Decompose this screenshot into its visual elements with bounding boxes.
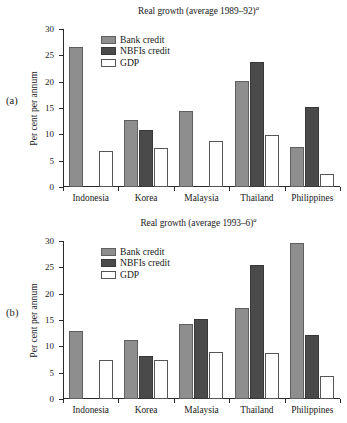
- bar: [320, 376, 334, 399]
- bar: [99, 151, 113, 187]
- legend-swatch-bank-credit-icon: [101, 36, 116, 44]
- x-axis-category-label: Thailand: [240, 193, 273, 203]
- bar: [69, 331, 83, 399]
- bar: [154, 360, 168, 400]
- y-axis-tick-label: 30: [45, 25, 54, 34]
- y-axis-label-b: Per cent per annum: [26, 241, 40, 399]
- bar: [305, 335, 319, 399]
- y-axis-tick-label: 20: [45, 77, 54, 86]
- bar-group: Malaysia: [174, 241, 229, 399]
- bar: [290, 147, 304, 187]
- legend-item-gdp: GDP: [101, 57, 170, 68]
- bar: [290, 243, 304, 399]
- chart-panel-b: (b) Real growth (average 1993–6)a Per ce…: [0, 212, 347, 423]
- legend-label-bank-credit: Bank credit: [120, 34, 165, 45]
- x-axis-tick: [340, 187, 341, 191]
- y-axis-tick-label: 0: [50, 183, 55, 192]
- bar: [99, 360, 113, 400]
- legend-item-gdp: GDP: [101, 269, 170, 280]
- legend-item-bank-credit: Bank credit: [101, 246, 170, 257]
- bar: [265, 353, 279, 399]
- y-axis-tick-label: 20: [45, 289, 54, 298]
- legend-label-gdp: GDP: [120, 57, 139, 68]
- legend-swatch-bank-credit-icon: [101, 248, 116, 256]
- x-axis-category-label: Thailand: [240, 405, 273, 415]
- bar: [235, 308, 249, 399]
- y-axis-tick-label: 30: [45, 237, 54, 246]
- x-axis-tick: [118, 187, 119, 191]
- x-axis-category-label: Indonesia: [72, 193, 108, 203]
- bar: [139, 130, 153, 187]
- chart-title-b-text: Real growth (average 1993–6): [140, 218, 253, 228]
- chart-panel-a: (a) Real growth (average 1989–92)a Per c…: [0, 0, 347, 211]
- legend-a: Bank credit NBFIs credit GDP: [101, 34, 170, 68]
- y-axis-tick-label: 15: [45, 316, 54, 325]
- legend-item-nbfis-credit: NBFIs credit: [101, 45, 170, 56]
- bar: [235, 81, 249, 187]
- bar: [320, 174, 334, 187]
- bar: [194, 319, 208, 399]
- legend-swatch-nbfis-credit-icon: [101, 259, 116, 267]
- bar: [209, 141, 223, 187]
- bar-group: Thailand: [229, 241, 284, 399]
- legend-swatch-gdp-icon: [101, 271, 116, 279]
- bar-group: Malaysia: [174, 29, 229, 187]
- panel-label-a: (a): [6, 95, 18, 106]
- bar: [179, 111, 193, 187]
- bar: [265, 135, 279, 187]
- x-axis-tick: [229, 187, 230, 191]
- bar: [154, 148, 168, 187]
- bar-group: Thailand: [229, 29, 284, 187]
- legend-label-nbfis-credit: NBFIs credit: [120, 45, 170, 56]
- y-axis-tick-label: 5: [50, 156, 55, 165]
- chart-title-a-superscript: a: [256, 4, 259, 11]
- y-axis-label-a: Per cent per annum: [26, 29, 40, 187]
- x-axis-tick: [285, 187, 286, 191]
- x-axis-tick: [340, 399, 341, 403]
- bar: [209, 352, 223, 399]
- bar: [179, 324, 193, 399]
- bar-group: Philippines: [285, 241, 340, 399]
- panel-label-b: (b): [6, 307, 19, 318]
- x-axis-category-label: Korea: [135, 193, 158, 203]
- x-axis-tick: [63, 187, 64, 191]
- y-axis-tick-label: 5: [50, 368, 55, 377]
- legend-label-nbfis-credit: NBFIs credit: [120, 257, 170, 268]
- y-axis-tick-label: 10: [45, 130, 54, 139]
- y-axis-tick-label: 25: [45, 263, 54, 272]
- chart-title-a-text: Real growth (average 1989–92): [138, 6, 256, 16]
- x-axis-category-label: Malaysia: [184, 193, 218, 203]
- bar: [124, 120, 138, 187]
- legend-b: Bank credit NBFIs credit GDP: [101, 246, 170, 280]
- legend-label-gdp: GDP: [120, 269, 139, 280]
- bar: [250, 62, 264, 187]
- legend-swatch-gdp-icon: [101, 59, 116, 67]
- y-axis-tick-label: 25: [45, 51, 54, 60]
- x-axis-tick: [174, 187, 175, 191]
- bar: [305, 107, 319, 187]
- y-axis-tick-label: 10: [45, 342, 54, 351]
- chart-title-a: Real growth (average 1989–92)a: [52, 6, 345, 16]
- x-axis-category-label: Philippines: [291, 405, 333, 415]
- x-axis-category-label: Philippines: [291, 193, 333, 203]
- x-axis-category-label: Indonesia: [72, 405, 108, 415]
- x-axis-category-label: Malaysia: [184, 405, 218, 415]
- x-axis-category-label: Korea: [135, 405, 158, 415]
- legend-item-nbfis-credit: NBFIs credit: [101, 257, 170, 268]
- bar-group: Philippines: [285, 29, 340, 187]
- x-axis-tick: [285, 399, 286, 403]
- legend-swatch-nbfis-credit-icon: [101, 47, 116, 55]
- chart-title-b: Real growth (average 1993–6)a: [52, 218, 345, 228]
- bar: [139, 356, 153, 399]
- y-axis-tick-label: 0: [50, 395, 55, 404]
- x-axis-tick: [63, 399, 64, 403]
- y-axis-tick-label: 15: [45, 104, 54, 113]
- bar: [124, 340, 138, 400]
- chart-title-b-superscript: a: [253, 216, 256, 223]
- legend-label-bank-credit: Bank credit: [120, 246, 165, 257]
- x-axis-tick: [118, 399, 119, 403]
- bar: [250, 265, 264, 399]
- x-axis-tick: [229, 399, 230, 403]
- legend-item-bank-credit: Bank credit: [101, 34, 170, 45]
- x-axis-tick: [174, 399, 175, 403]
